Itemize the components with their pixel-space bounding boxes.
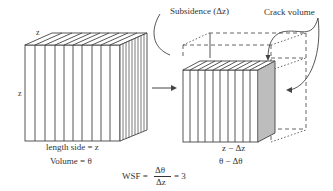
formula-lhs: WSF = — [122, 171, 148, 181]
side-edge-label: z — [18, 89, 22, 98]
formula-denominator: Δz — [156, 177, 166, 187]
formula-numerator: Δθ — [155, 165, 165, 175]
subsidence-label: Subsidence (Δz) — [170, 6, 229, 16]
right-caption-volume: θ − Δθ — [219, 156, 243, 166]
crack-volume-label: Crack volume — [264, 7, 315, 17]
top-edge-label: z — [36, 28, 40, 37]
original-soil-block — [25, 33, 147, 141]
left-caption-volume: Volume = θ — [50, 156, 92, 166]
arrow-right-icon — [152, 85, 177, 91]
wsf-diagram: z z length side = z Volume = θ Subsidenc… — [0, 0, 333, 191]
left-caption-length: length side = z — [46, 142, 99, 152]
subsidence-leader — [154, 14, 210, 58]
right-caption-length: z − Δz — [222, 143, 245, 153]
shrunk-soil-block — [183, 61, 275, 142]
formula-rhs: = 3 — [174, 171, 186, 181]
